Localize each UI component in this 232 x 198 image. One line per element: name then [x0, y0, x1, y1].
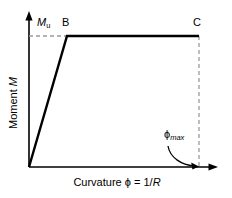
y-axis-title: Moment M — [8, 62, 19, 144]
y-axis — [25, 11, 32, 167]
y-axis-title-word: Moment — [7, 89, 19, 129]
phimax-curved-arrow — [168, 146, 199, 170]
moment-curvature-figure: Mu B C ϕmax Moment M Curvature ϕ = 1/R — [0, 0, 232, 198]
phimax-label-subscript: max — [170, 133, 184, 142]
y-axis-title-symbol: M — [7, 77, 19, 86]
x-axis-arrowhead — [209, 163, 219, 170]
point-b-label: B — [62, 17, 69, 28]
x-axis-title-radius: R — [153, 176, 161, 188]
x-axis-title: Curvature ϕ = 1/R — [28, 177, 206, 188]
mu-label-subscript: u — [46, 21, 50, 30]
x-axis-title-symbol: ϕ — [125, 176, 131, 188]
mu-label: Mu — [37, 17, 50, 30]
y-axis-arrowhead — [25, 11, 32, 21]
x-axis — [29, 163, 218, 170]
mu-label-symbol: M — [37, 16, 46, 28]
point-c-label: C — [193, 17, 201, 28]
phimax-label: ϕmax — [164, 129, 184, 142]
x-axis-title-word: Curvature — [73, 176, 121, 188]
moment-curvature-curve — [29, 36, 199, 167]
chart-canvas — [0, 0, 232, 198]
x-axis-title-equals: = 1/ — [134, 176, 153, 188]
phimax-arrowhead — [191, 162, 199, 169]
